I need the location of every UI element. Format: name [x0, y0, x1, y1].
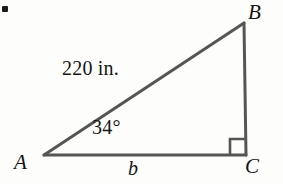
triangle-drawing	[0, 0, 283, 184]
triangle-outline	[44, 23, 246, 155]
angle-measure-label-a: 34°	[92, 117, 121, 137]
side-variable-label-b: b	[128, 158, 138, 178]
vertex-label-a: A	[14, 152, 27, 173]
right-angle-marker-icon	[230, 139, 246, 155]
triangle-figure: A B C 220 in. 34° b	[0, 0, 283, 184]
segment-ab-hypotenuse	[44, 23, 244, 155]
vertex-label-b: B	[248, 2, 261, 23]
segment-bc-vertical-leg	[244, 23, 246, 155]
vertex-label-c: C	[245, 156, 259, 177]
hypotenuse-measure-label: 220 in.	[62, 58, 119, 78]
